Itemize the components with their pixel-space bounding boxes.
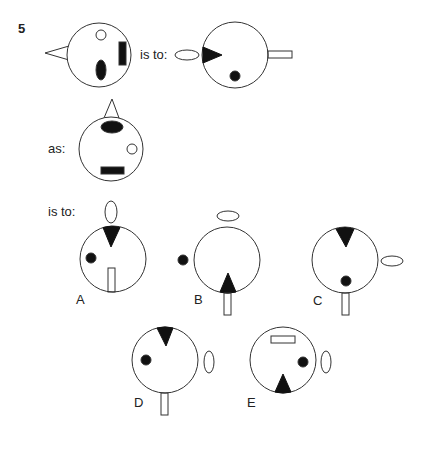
- filled-dot: [86, 253, 96, 263]
- filled-dot: [141, 355, 151, 365]
- puzzle-stage: 5 is to: as: is to: A B C D E: [0, 0, 427, 450]
- filled-rectangle: [119, 42, 126, 65]
- filled-dot: [341, 276, 351, 286]
- hollow-ellipse: [175, 50, 199, 60]
- figure-1: [45, 23, 131, 87]
- triangle-outward-icon: [45, 46, 69, 60]
- figure-2: [175, 22, 292, 88]
- hollow-ellipse: [105, 201, 117, 223]
- filled-ellipse: [96, 60, 106, 80]
- figures-canvas: [0, 0, 427, 450]
- filled-dot: [298, 357, 308, 367]
- option-c-figure[interactable]: [312, 227, 403, 315]
- figure-3: [79, 99, 143, 181]
- filled-dot: [178, 255, 188, 265]
- option-a-figure[interactable]: [80, 201, 146, 292]
- hollow-rectangle: [342, 293, 349, 315]
- option-e-figure[interactable]: [250, 327, 331, 393]
- filled-dot: [230, 71, 240, 81]
- hollow-ellipse: [381, 256, 403, 266]
- hollow-rectangle: [224, 293, 231, 315]
- filled-rectangle: [101, 167, 124, 174]
- triangle-outward-icon: [104, 99, 119, 118]
- hollow-rectangle: [161, 393, 168, 415]
- hollow-ellipse: [217, 211, 239, 221]
- hollow-ellipse: [321, 351, 331, 373]
- option-b-figure[interactable]: [178, 211, 260, 315]
- hollow-rectangle: [268, 51, 292, 58]
- option-d-figure[interactable]: [132, 327, 214, 415]
- filled-ellipse: [101, 121, 123, 133]
- hollow-ellipse: [204, 351, 214, 373]
